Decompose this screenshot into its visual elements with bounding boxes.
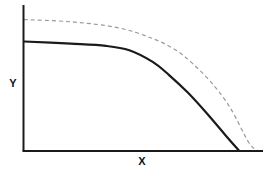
x-axis-label: X [138,155,146,167]
series-line-frontier-inner [24,42,239,152]
y-axis-label: Y [9,77,17,89]
series-layer [24,20,258,151]
chart: X Y [0,0,278,176]
